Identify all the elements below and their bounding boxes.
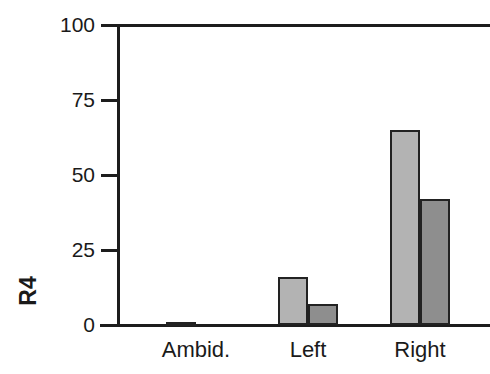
bar: [420, 199, 450, 325]
bar-chart: R4 0255075100 Ambid.LeftRight: [0, 0, 490, 374]
x-axis-tick-labels: Ambid.LeftRight: [0, 336, 490, 370]
bars-layer: [0, 0, 490, 325]
bar: [166, 322, 196, 326]
bar: [308, 304, 338, 325]
x-axis-tick-label: Right: [350, 336, 490, 364]
bar: [278, 277, 308, 325]
bar: [390, 130, 420, 325]
